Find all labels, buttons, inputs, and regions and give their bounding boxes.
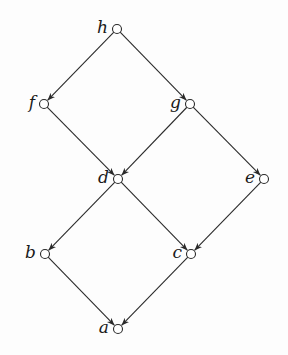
node-label-g: g xyxy=(170,92,181,112)
edge-c-a xyxy=(121,257,187,325)
edge-d-c xyxy=(121,182,187,250)
edge-h-f xyxy=(47,32,113,100)
node-circle-a xyxy=(114,325,123,334)
hasse-diagram: hfgdebca xyxy=(0,0,288,355)
edge-b-a xyxy=(48,257,114,325)
node-d: d xyxy=(98,167,122,187)
node-label-h: h xyxy=(97,17,108,37)
edge-e-c xyxy=(194,182,260,250)
node-label-a: a xyxy=(99,317,109,337)
edge-d-b xyxy=(48,182,114,250)
node-circle-b xyxy=(41,250,50,259)
node-e: e xyxy=(245,167,269,187)
node-c: c xyxy=(172,242,195,262)
node-circle-h xyxy=(113,25,122,34)
node-circle-g xyxy=(186,100,195,109)
edge-g-e xyxy=(193,107,260,175)
node-circle-d xyxy=(114,175,123,184)
node-label-b: b xyxy=(25,242,36,262)
node-label-e: e xyxy=(245,167,255,187)
node-f: f xyxy=(27,92,49,112)
node-circle-f xyxy=(40,100,49,109)
nodes: hfgdebca xyxy=(25,17,268,337)
edge-h-g xyxy=(120,32,186,100)
node-h: h xyxy=(97,17,121,37)
node-label-d: d xyxy=(98,167,109,187)
node-circle-c xyxy=(187,250,196,259)
node-g: g xyxy=(170,92,194,112)
edges xyxy=(47,32,261,325)
edge-f-d xyxy=(47,107,114,175)
node-a: a xyxy=(99,317,123,337)
node-b: b xyxy=(25,242,49,262)
edge-g-d xyxy=(121,107,186,175)
node-circle-e xyxy=(260,175,269,184)
node-label-c: c xyxy=(172,242,182,262)
node-label-f: f xyxy=(27,92,38,112)
